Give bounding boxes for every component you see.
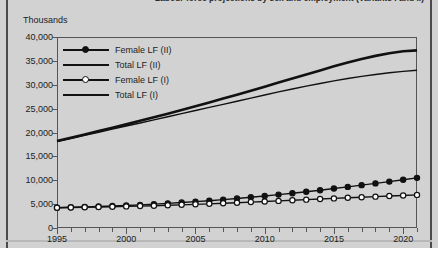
series-markers [54, 175, 419, 210]
series-marker [276, 192, 281, 197]
series-marker [68, 205, 73, 210]
legend-swatch [63, 89, 109, 101]
legend-item: Total LF (II) [63, 57, 213, 72]
series-marker [276, 198, 281, 203]
legend-label: Total LF (II) [109, 60, 161, 70]
series-marker [290, 198, 295, 203]
legend-line [63, 64, 109, 66]
chart-legend: Female LF (II)Total LF (II)Female LF (I)… [63, 42, 213, 102]
series-marker [234, 200, 239, 205]
series-marker [151, 203, 156, 208]
series-marker [304, 189, 309, 194]
series-marker [331, 196, 336, 201]
series-marker [248, 200, 253, 205]
series-marker [124, 204, 129, 209]
series-marker [414, 192, 419, 197]
series-marker [359, 183, 364, 188]
legend-swatch [63, 74, 109, 86]
legend-item: Female LF (I) [63, 72, 213, 87]
series-marker [331, 186, 336, 191]
scanned-page: Labour force projections by sex and empl… [0, 0, 438, 269]
series-marker [179, 202, 184, 207]
series-marker [262, 199, 267, 204]
legend-label: Female LF (II) [109, 45, 172, 55]
legend-line [63, 94, 109, 96]
series-marker [373, 181, 378, 186]
series-marker [373, 194, 378, 199]
series-layer [0, 0, 438, 248]
series-marker [110, 204, 115, 209]
series-marker [304, 197, 309, 202]
series-marker [262, 193, 267, 198]
series-marker [401, 177, 406, 182]
series-marker [137, 203, 142, 208]
series-marker [96, 204, 101, 209]
series-marker [165, 203, 170, 208]
legend-marker [82, 46, 89, 53]
series-marker [317, 196, 322, 201]
series-marker [317, 188, 322, 193]
series-marker [221, 201, 226, 206]
series-marker [82, 205, 87, 210]
legend-swatch [63, 59, 109, 71]
series-marker [401, 193, 406, 198]
series-marker [193, 202, 198, 207]
legend-label: Total LF (I) [109, 90, 158, 100]
series-marker [345, 184, 350, 189]
series-marker [414, 175, 419, 180]
legend-item: Total LF (I) [63, 87, 213, 102]
line-chart: 05,00010,00015,00020,00025,00030,00035,0… [0, 0, 438, 248]
series-marker [387, 179, 392, 184]
legend-marker [82, 76, 89, 83]
series-marker [359, 195, 364, 200]
legend-swatch [63, 44, 109, 56]
series-marker [387, 193, 392, 198]
series-marker [345, 195, 350, 200]
series-marker [290, 191, 295, 196]
legend-label: Female LF (I) [109, 75, 169, 85]
legend-item: Female LF (II) [63, 42, 213, 57]
series-marker [207, 201, 212, 206]
series-marker [54, 205, 59, 210]
